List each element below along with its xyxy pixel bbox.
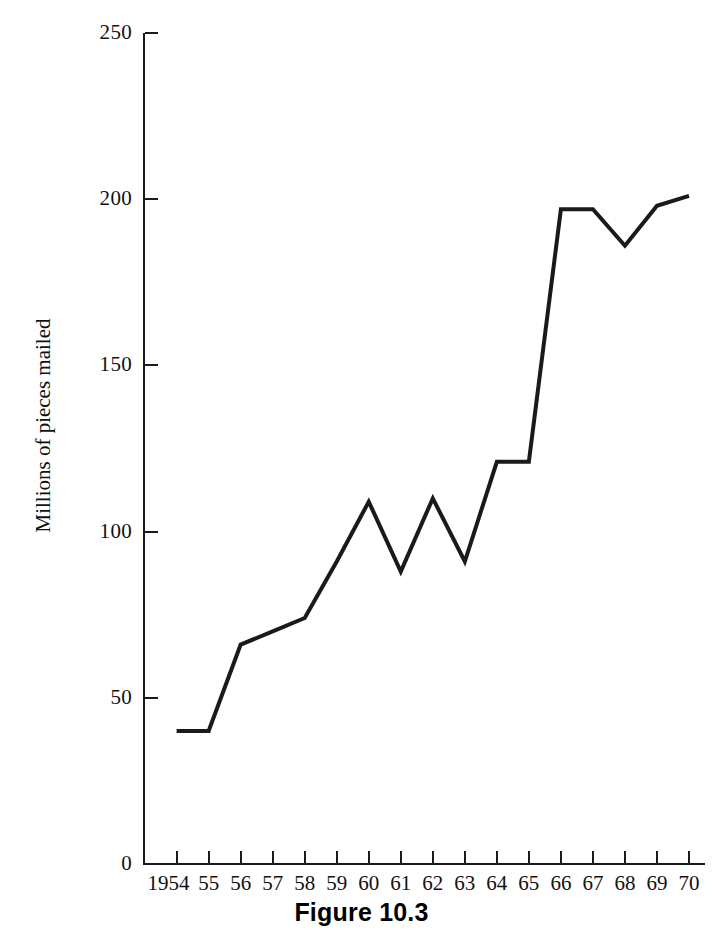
figure-container: Millions of pieces mailed 05010015020025… [0,0,723,941]
data-series-line [177,196,689,731]
figure-caption: Figure 10.3 [0,898,723,927]
plot-area [0,0,723,941]
